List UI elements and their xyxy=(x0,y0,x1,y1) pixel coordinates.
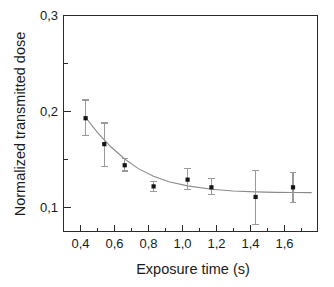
data-point xyxy=(208,179,214,194)
x-axis-minor-ticks xyxy=(98,228,302,232)
data-marker xyxy=(152,184,156,188)
data-series-points xyxy=(82,100,296,225)
x-tick-label-4: 1,2 xyxy=(207,236,225,251)
data-marker xyxy=(102,142,106,146)
x-tick-label-0: 0,4 xyxy=(71,236,89,251)
y-axis-label: Normalized transmitted dose xyxy=(12,32,28,217)
x-tick-label-6: 1,6 xyxy=(275,236,293,251)
y-tick-label-2: 0,1 xyxy=(40,200,58,215)
data-point xyxy=(82,100,88,136)
data-marker xyxy=(186,178,190,182)
x-tick-label-1: 0,6 xyxy=(105,236,123,251)
data-point xyxy=(290,173,296,203)
fit-curve xyxy=(86,117,312,192)
data-point xyxy=(252,170,258,225)
chart-canvas: 0,3 0,2 0,1 0,4 0,6 0,8 1,0 1,2 1,4 1,6 … xyxy=(0,0,334,287)
y-tick-label-0: 0,3 xyxy=(40,8,58,23)
data-point xyxy=(150,182,156,192)
data-marker xyxy=(123,163,127,167)
data-point xyxy=(101,123,107,166)
x-tick-label-3: 1,0 xyxy=(173,236,191,251)
x-tick-label-2: 0,8 xyxy=(139,236,157,251)
data-marker xyxy=(254,195,258,199)
data-marker xyxy=(209,185,213,189)
x-axis-label: Exposure time (s) xyxy=(136,261,250,277)
x-tick-label-5: 1,4 xyxy=(241,236,259,251)
data-marker xyxy=(84,116,88,120)
data-marker xyxy=(291,185,295,189)
figure-container: 0,3 0,2 0,1 0,4 0,6 0,8 1,0 1,2 1,4 1,6 … xyxy=(0,0,334,287)
y-axis-major-ticks xyxy=(64,16,71,208)
x-axis-major-ticks xyxy=(81,225,285,232)
y-tick-label-1: 0,2 xyxy=(40,104,58,119)
